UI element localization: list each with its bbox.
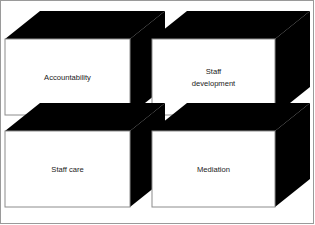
block-mediation-label: Mediation bbox=[197, 165, 230, 174]
block-accountability-label: Accountability bbox=[44, 73, 91, 82]
diagram-canvas: Accountability Staff development Staff c… bbox=[0, 0, 315, 225]
four-blocks-diagram: Accountability Staff development Staff c… bbox=[0, 0, 315, 225]
block-accountability[interactable]: Accountability bbox=[5, 11, 165, 115]
block-staff-care-label: Staff care bbox=[51, 165, 83, 174]
block-staff-care[interactable]: Staff care bbox=[5, 103, 165, 207]
block-staff-development-label-line1: Staff bbox=[206, 67, 222, 76]
block-mediation[interactable]: Mediation bbox=[152, 103, 310, 207]
block-staff-development-label-line2: development bbox=[192, 79, 236, 88]
block-staff-development[interactable]: Staff development bbox=[152, 11, 310, 115]
